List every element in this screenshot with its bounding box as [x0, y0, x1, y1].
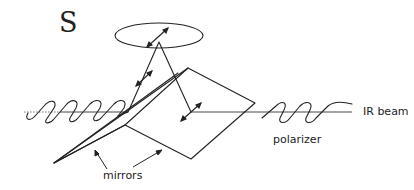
s-polarization-diagram: S IR beam polarizer mirrors [0, 0, 414, 190]
polarizer-label: polarizer [273, 133, 322, 146]
upper-mirror [54, 68, 255, 163]
mirror-fold-line [54, 125, 125, 163]
ir-beam-label: IR beam [363, 105, 409, 118]
upper-mirror-front-edge [54, 73, 178, 163]
mirrors-label: mirrors [103, 169, 143, 182]
reflected-ray-path [133, 42, 191, 112]
polarization-label-s: S [59, 7, 78, 38]
mirror-pointer-arrows [95, 150, 162, 169]
polarization-arrows [136, 28, 201, 121]
